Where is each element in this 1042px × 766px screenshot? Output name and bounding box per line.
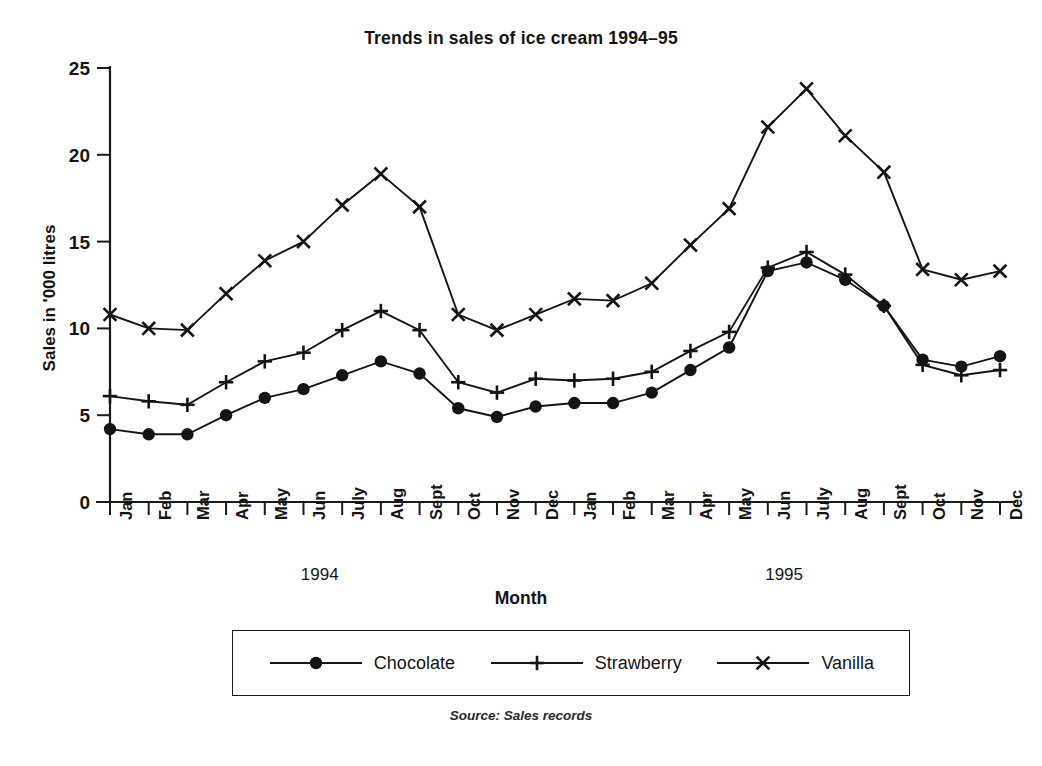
series-vanilla — [104, 82, 1007, 336]
legend-label-vanilla: Vanilla — [821, 653, 874, 674]
marker-chocolate-10 — [491, 411, 503, 423]
legend-label-strawberry: Strawberry — [595, 653, 682, 674]
x-tick-label-19: Aug — [852, 506, 871, 520]
x-tick-label-8: Sept — [427, 506, 446, 520]
y-tick-label-25: 25 — [69, 58, 91, 79]
series-group — [103, 82, 1007, 440]
y-tick-label-20: 20 — [69, 145, 90, 166]
x-tick-label-17: Jun — [775, 506, 794, 520]
x-tick-label-22: Nov — [968, 506, 987, 520]
marker-chocolate-legend — [310, 657, 322, 669]
chart-legend: ChocolateStrawberryVanilla — [232, 630, 910, 696]
x-tick-label-9: Oct — [465, 506, 484, 520]
x-tick-label-11: Dec — [543, 506, 562, 520]
x-tick-label-15: Apr — [697, 506, 716, 520]
marker-chocolate-14 — [646, 386, 658, 398]
y-tick-label-5: 5 — [79, 405, 90, 426]
marker-chocolate-4 — [259, 392, 271, 404]
chart-page: Trends in sales of ice cream 1994–95 Sal… — [0, 0, 1042, 766]
x-tick-label-18: July — [814, 506, 833, 520]
marker-chocolate-6 — [336, 369, 348, 381]
marker-chocolate-8 — [413, 367, 425, 379]
series-chocolate — [104, 256, 1006, 440]
x-tick-label-7: Aug — [388, 506, 407, 520]
legend-entry-strawberry[interactable]: Strawberry — [489, 652, 682, 674]
x-tick-label-20: Sept — [891, 506, 910, 520]
marker-chocolate-15 — [684, 364, 696, 376]
marker-chocolate-23 — [994, 350, 1006, 362]
line-strawberry — [110, 252, 1000, 405]
x-tick-label-21: Oct — [930, 506, 949, 520]
legend-entry-vanilla[interactable]: Vanilla — [715, 652, 874, 674]
marker-chocolate-16 — [723, 341, 735, 353]
marker-chocolate-7 — [375, 355, 387, 367]
legend-entry-chocolate[interactable]: Chocolate — [268, 652, 455, 674]
y-tick-label-0: 0 — [79, 492, 90, 513]
y-tick-label-15: 15 — [69, 232, 91, 253]
x-tick-label-12: Jan — [581, 506, 600, 520]
marker-chocolate-3 — [220, 409, 232, 421]
legend-swatch-strawberry-icon — [489, 652, 585, 674]
x-tick-label-1: Feb — [156, 506, 175, 520]
legend-swatch-chocolate-icon — [268, 652, 364, 674]
source-note: Source: Sales records — [0, 708, 1042, 723]
x-tick-label-13: Feb — [620, 506, 639, 520]
legend-swatch-vanilla-icon — [715, 652, 811, 674]
x-tick-label-10: Nov — [504, 506, 523, 520]
x-tick-label-23: Dec — [1007, 506, 1026, 520]
marker-chocolate-5 — [297, 383, 309, 395]
marker-chocolate-1 — [142, 428, 154, 440]
x-tick-label-0: Jan — [117, 506, 136, 520]
marker-chocolate-13 — [607, 397, 619, 409]
x-tick-label-5: Jun — [310, 506, 329, 520]
x-tick-label-2: Mar — [194, 506, 213, 520]
marker-chocolate-11 — [529, 400, 541, 412]
x-axis-label: Month — [0, 588, 1042, 609]
x-tick-label-3: Apr — [233, 506, 252, 520]
x-tick-label-4: May — [272, 506, 291, 520]
marker-chocolate-9 — [452, 402, 464, 414]
year-label-1995: 1995 — [765, 565, 803, 585]
y-tick-label-10: 10 — [69, 318, 90, 339]
line-chocolate — [110, 262, 1000, 434]
marker-chocolate-2 — [181, 428, 193, 440]
x-tick-label-14: Mar — [659, 506, 678, 520]
legend-label-chocolate: Chocolate — [374, 653, 455, 674]
year-label-1994: 1994 — [301, 565, 339, 585]
x-tick-label-16: May — [736, 506, 755, 520]
marker-chocolate-0 — [104, 423, 116, 435]
axes-group: 0510152025 — [69, 58, 1016, 515]
marker-chocolate-12 — [568, 397, 580, 409]
series-strawberry — [103, 245, 1007, 412]
x-tick-label-6: July — [349, 506, 368, 520]
